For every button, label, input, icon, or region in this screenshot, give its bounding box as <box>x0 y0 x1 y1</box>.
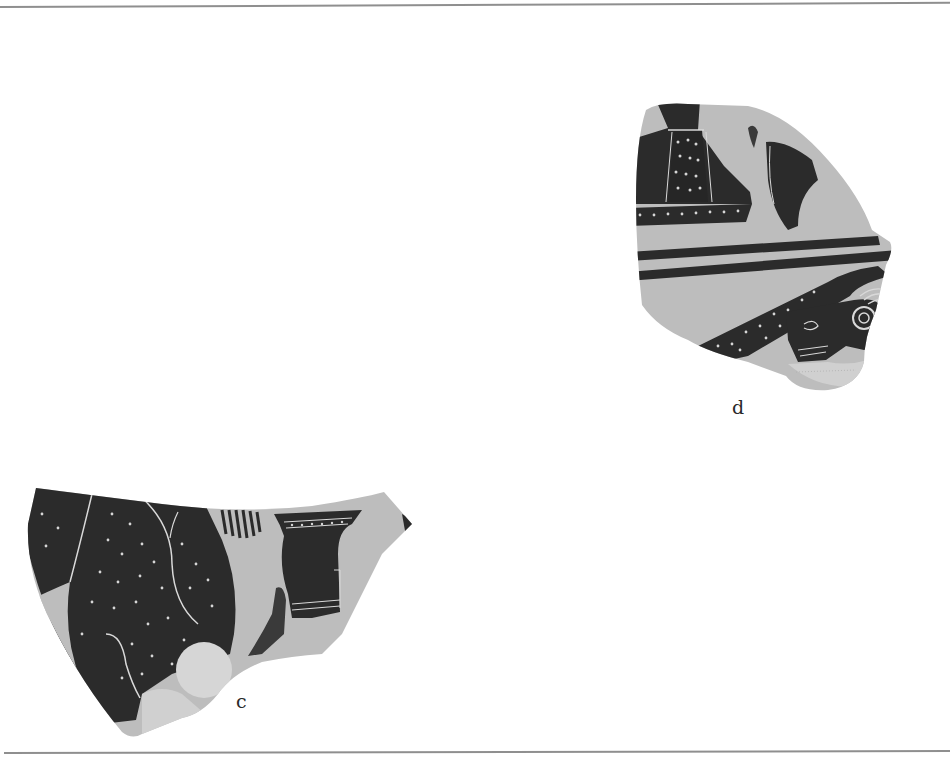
sherd-photo-c <box>22 484 417 740</box>
sherd-photo-d <box>628 100 898 395</box>
pottery-fragment-c-image <box>22 484 417 740</box>
figure-label-d: d <box>732 398 744 417</box>
top-rule <box>0 2 950 8</box>
figure-label-c: c <box>236 692 247 711</box>
bottom-rule <box>4 750 950 754</box>
pottery-fragment-d-image <box>628 100 898 395</box>
